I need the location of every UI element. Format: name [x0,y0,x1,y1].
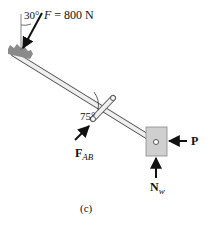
diagram-graphics [0,0,211,227]
handle-grip [8,44,33,59]
angle-arc-30 [21,24,31,25]
force-fab-label: FAB [75,146,93,162]
force-f-label: F = 800 N [44,8,94,23]
figure-caption: (c) [80,202,92,214]
free-body-diagram: 30° F = 800 N 75° FAB P Nw (c) [0,0,211,227]
force-p-label: P [191,134,198,149]
force-fab-arrow [75,126,89,140]
force-n-label: Nw [150,180,165,196]
angle-30-label: 30° [24,9,39,21]
angle-75-label: 75° [80,110,95,122]
